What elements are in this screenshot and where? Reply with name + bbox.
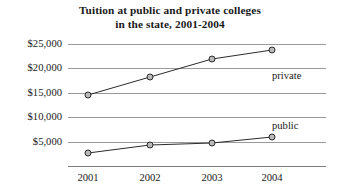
x-tick-label-2003: 2003 [188,172,236,184]
data-point-private-2002 [147,74,153,80]
series-label-public: public [272,120,298,132]
series-line-private [88,50,272,95]
data-point-public-2001 [85,150,91,156]
data-point-private-2004 [269,47,275,53]
x-tick-label-2002: 2002 [126,172,174,184]
data-point-private-2003 [209,56,215,62]
data-point-public-2004 [269,134,275,140]
tuition-line-chart: Tuition at public and private colleges i… [0,0,340,196]
x-tick-label-2001: 2001 [64,172,112,184]
series-label-private: private [272,70,301,82]
series-line-public [88,137,272,153]
x-axis: 2001 2002 2003 2004 [0,172,340,192]
data-point-public-2003 [209,140,215,146]
data-point-private-2001 [85,92,91,98]
series-overlay [0,0,340,196]
x-tick-label-2004: 2004 [248,172,296,184]
data-point-public-2002 [147,142,153,148]
